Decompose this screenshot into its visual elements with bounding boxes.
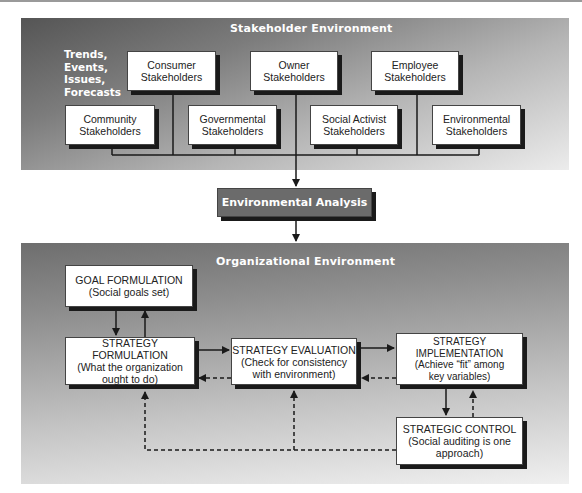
community-stakeholders-box: Community Stakeholders [65, 105, 155, 145]
environmental-analysis-box: Environmental Analysis [217, 188, 372, 217]
employee-stakeholders-box: Employee Stakeholders [371, 51, 459, 91]
governmental-stakeholders-box: Governmental Stakeholders [188, 105, 277, 145]
goal-formulation-box: GOAL FORMULATION (Social goals set) [65, 265, 193, 307]
social-activist-stakeholders-box: Social Activist Stakeholders [310, 105, 398, 145]
strategy-formulation-box: STRATEGY FORMULATION (What the organizat… [65, 337, 195, 385]
strategy-evaluation-box: STRATEGY EVALUATION (Check for consisten… [231, 338, 357, 385]
strategy-implementation-box: STRATEGY IMPLEMENTATION (Achieve “fit” a… [396, 333, 523, 385]
owner-stakeholders-box: Owner Stakeholders [250, 51, 338, 91]
consumer-stakeholders-box: Consumer Stakeholders [127, 51, 216, 91]
strategic-control-box: STRATEGIC CONTROL (Social auditing is on… [396, 417, 523, 465]
environmental-stakeholders-box: Environmental Stakeholders [432, 105, 521, 145]
